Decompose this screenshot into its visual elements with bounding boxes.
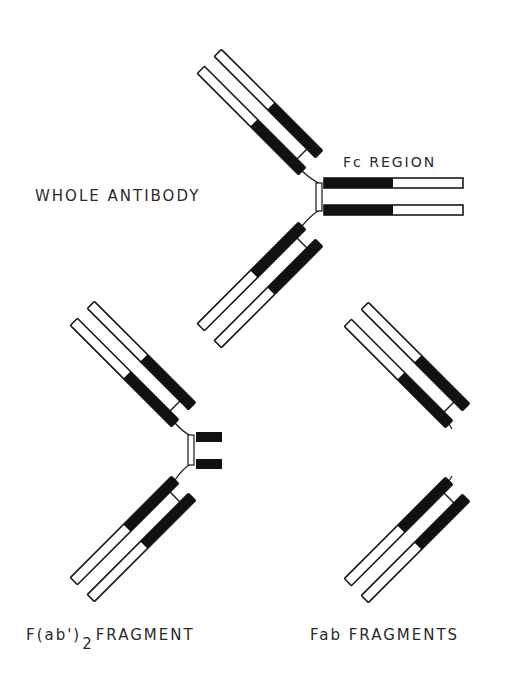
hinge-region	[316, 183, 322, 211]
antibody-diagram	[0, 0, 517, 684]
fab2-upper-fab-arm	[70, 301, 195, 426]
fab2-lower-fab-arm	[70, 476, 195, 601]
whole-antibody-lower-fab-arm	[197, 222, 322, 347]
fab2-hinge	[188, 435, 194, 465]
fab2-heavy-chain-stubs	[196, 432, 222, 469]
fc-region-label: Fc REGION	[343, 154, 436, 170]
fab2-fragment	[70, 301, 222, 601]
whole-antibody-upper-fab-arm	[197, 49, 322, 174]
fab2-label-prefix: F(ab')	[26, 626, 81, 644]
fab-fragments	[344, 302, 469, 602]
fab2-fragment-label: F(ab')2FRAGMENT	[26, 626, 195, 644]
fc-region	[324, 178, 463, 215]
fab-fragments-label: Fab FRAGMENTS	[310, 626, 459, 644]
fab2-label-subscript: 2	[82, 635, 92, 653]
fab-fragment-lower	[344, 476, 469, 603]
fab-fragment-upper	[344, 302, 469, 429]
fab2-label-suffix: FRAGMENT	[96, 626, 195, 644]
whole-antibody-label: WHOLE ANTIBODY	[35, 187, 200, 205]
whole-antibody	[197, 49, 463, 347]
